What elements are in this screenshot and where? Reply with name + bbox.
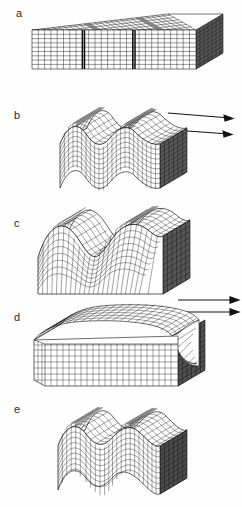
panel-e: e: [0, 398, 242, 507]
figure-canvas: a: [0, 0, 242, 507]
panel-c: c: [0, 200, 242, 298]
panel-d-diagram: [0, 298, 242, 398]
panel-c-diagram: [0, 200, 242, 298]
panel-a-diagram: [0, 0, 242, 100]
panel-b-diagram: [0, 100, 242, 200]
panel-a: a: [0, 0, 242, 100]
panel-d: d: [0, 298, 242, 398]
panel-b: b: [0, 100, 242, 200]
panel-e-diagram: [0, 398, 242, 507]
